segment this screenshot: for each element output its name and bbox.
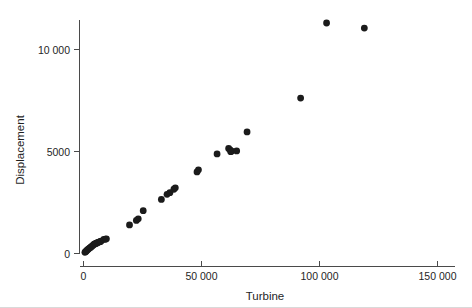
- x-tick-label-0: 0: [81, 270, 87, 282]
- data-point: [233, 147, 240, 154]
- data-points-layer: [82, 20, 368, 256]
- data-point: [361, 25, 368, 32]
- y-axis-ticks: [74, 50, 80, 254]
- x-tick-label-50000: 50 000: [185, 270, 217, 282]
- y-tick-label-0: 0: [64, 248, 70, 260]
- x-axis-title: Turbine: [246, 290, 285, 302]
- x-tick-label-150000: 150 000: [419, 270, 457, 282]
- y-tick-label-5000: 5000: [47, 146, 71, 158]
- data-point: [244, 129, 251, 136]
- data-point: [195, 166, 202, 173]
- y-tick-label-10000: 10 000: [38, 44, 70, 56]
- plot-canvas: 0 5000 10 000 0 50 000 100 000 150 000 D…: [0, 0, 472, 308]
- data-point: [158, 196, 165, 203]
- data-point: [214, 151, 221, 158]
- data-point: [140, 207, 147, 214]
- y-axis-title: Displacement: [14, 114, 26, 184]
- x-axis-ticks: [84, 261, 438, 267]
- x-tick-label-100000: 100 000: [301, 270, 339, 282]
- data-point: [323, 20, 330, 27]
- data-point: [103, 235, 110, 242]
- data-point: [126, 222, 133, 229]
- data-point: [172, 184, 179, 191]
- data-point: [135, 215, 142, 222]
- scatter-plot-figure: 0 5000 10 000 0 50 000 100 000 150 000 D…: [0, 0, 472, 308]
- data-point: [297, 95, 304, 102]
